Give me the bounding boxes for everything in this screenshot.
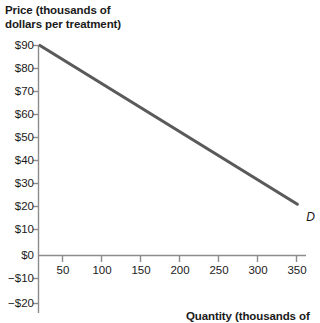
y-tick-label: $50 (0, 131, 34, 143)
y-tick-label: $70 (0, 85, 34, 97)
y-tick-label: $90 (0, 39, 34, 51)
y-tick-label: $30 (0, 177, 34, 189)
y-tick-label: $60 (0, 108, 34, 120)
y-tick-label: $0 (0, 249, 34, 261)
x-tick-label: 150 (124, 264, 158, 276)
x-axis-ticks (63, 256, 297, 263)
y-tick-label: $10 (0, 223, 34, 235)
demand-curve-chart: Price (thousands of dollars per treatmen… (0, 0, 320, 323)
demand-curve-label: D (306, 210, 315, 224)
demand-curve-line (40, 46, 297, 205)
y-tick-label: $20 (0, 200, 34, 212)
x-tick-label: 350 (280, 264, 314, 276)
y-tick-label: $40 (0, 154, 34, 166)
y-tick-label: −$20 (0, 297, 34, 309)
x-tick-label: 100 (85, 264, 119, 276)
y-tick-label: $80 (0, 62, 34, 74)
x-tick-label: 50 (46, 264, 80, 276)
y-tick-label: −$10 (0, 272, 34, 284)
x-tick-label: 300 (241, 264, 275, 276)
x-axis-title: Quantity (thousands of (186, 309, 320, 323)
x-tick-label: 200 (163, 264, 197, 276)
x-tick-label: 250 (202, 264, 236, 276)
